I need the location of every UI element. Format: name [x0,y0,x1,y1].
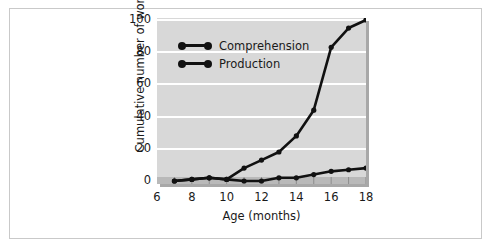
data-point [346,25,351,30]
data-point [294,175,299,180]
x-tick-label-14: 14 [283,190,309,204]
data-point [294,133,299,138]
data-point [329,45,334,50]
y-tick-label-0: 0 [125,173,151,187]
x-tick-label-10: 10 [214,190,240,204]
y-tick-label-40: 40 [125,109,151,123]
data-point [346,167,351,172]
data-point [329,169,334,174]
x-axis-label: Age (months) [157,209,366,223]
x-tick-label-12: 12 [249,190,275,204]
data-point [259,157,264,162]
legend-label: Comprehension [219,39,309,53]
data-point [172,178,177,183]
data-point [363,166,366,171]
legend-item-production[interactable]: Production [178,56,309,71]
data-point [241,166,246,171]
data-point [189,177,194,182]
y-axis-ticks: Cumulative number of words 020406080100 [119,0,151,249]
legend-item-comprehension[interactable]: Comprehension [178,38,309,53]
x-tick-label-16: 16 [318,190,344,204]
data-point [241,178,246,183]
x-axis-ticks: 681012141618 [0,190,492,206]
y-tick-label-20: 20 [125,141,151,155]
data-point [311,108,316,113]
chart-legend: ComprehensionProduction [178,38,309,74]
legend-marker-icon [178,58,212,69]
x-tick-label-18: 18 [353,190,379,204]
x-tick-label-8: 8 [179,190,205,204]
data-point [259,178,264,183]
data-point [276,149,281,154]
series-line-production [174,168,366,181]
figure-container: Cumulative number of words 020406080100 … [0,0,492,249]
data-point [207,175,212,180]
y-tick-label-100: 100 [125,12,151,26]
y-tick-label-80: 80 [125,44,151,58]
legend-marker-icon [178,40,212,51]
data-point [224,177,229,182]
data-point [311,172,316,177]
y-tick-label-60: 60 [125,76,151,90]
x-tick-label-6: 6 [144,190,170,204]
data-point [276,175,281,180]
legend-label: Production [219,57,280,71]
